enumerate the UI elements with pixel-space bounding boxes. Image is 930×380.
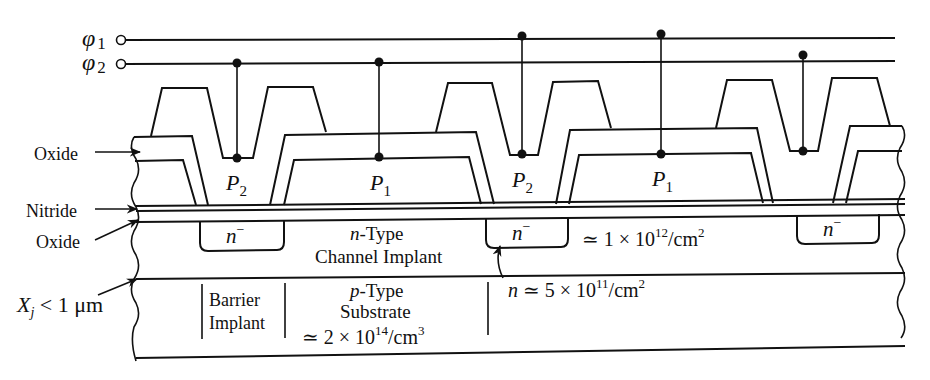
barrier-implant-line1: Barrier — [209, 290, 260, 310]
electrode-label-p2-b: P2 — [511, 167, 533, 196]
nitride-label: Nitride — [26, 201, 77, 221]
n-minus-label-1: n− — [226, 222, 245, 248]
ccd-cross-section-diagram: φ1 φ2 — [0, 0, 930, 380]
barrier-dose-arrow — [498, 246, 503, 278]
phi2-terminal-icon — [117, 60, 126, 69]
oxide-bottom-label: Oxide — [36, 232, 80, 252]
electrode-label-p1-b: P1 — [651, 166, 673, 195]
channel-implant-line1: n-Type — [350, 223, 404, 244]
electrode-taps — [233, 30, 808, 163]
n-minus-label-2: n− — [512, 219, 531, 245]
phi1-terminal-icon — [117, 36, 126, 45]
oxide-top-label: Oxide — [34, 144, 78, 164]
electrode-label-p1-a: P1 — [369, 170, 391, 199]
channel-dose-label: ≃ 1 × 1012/cm2 — [582, 225, 705, 250]
substrate-line1: p-Type — [348, 280, 404, 301]
junction-depth-label: Xj < 1 μm — [16, 292, 103, 320]
dielectric-stack — [136, 199, 905, 222]
left-break-edge — [131, 137, 138, 361]
barrier-implant-line2: Implant — [209, 313, 265, 333]
substrate-concentration: ≃ 2 × 1014/cm3 — [302, 323, 425, 348]
substrate-line2: Substrate — [340, 301, 411, 322]
phi2-label: φ2 — [82, 49, 106, 77]
right-break-edge — [897, 126, 904, 338]
upper-poly-electrodes — [151, 78, 890, 158]
phi1-line — [126, 38, 895, 40]
substrate-bottom-line — [136, 346, 905, 358]
channel-implant-line2: Channel Implant — [315, 246, 443, 267]
barrier-dose-label: n ≃ 5 × 1011/cm2 — [508, 276, 645, 301]
electrode-label-p2-a: P2 — [225, 170, 247, 199]
n-minus-label-3: n− — [823, 215, 842, 241]
